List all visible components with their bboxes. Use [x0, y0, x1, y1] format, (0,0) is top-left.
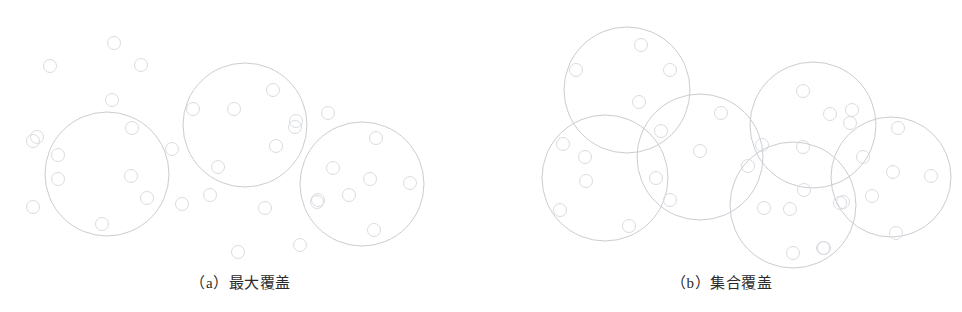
point-marker: [52, 173, 65, 186]
point-marker: [212, 161, 225, 174]
point-marker: [866, 190, 879, 203]
point-marker: [176, 198, 189, 211]
point-marker: [187, 103, 200, 116]
point-marker: [784, 203, 797, 216]
point-marker: [817, 242, 830, 255]
point-marker: [27, 201, 40, 214]
point-marker: [204, 189, 217, 202]
figure-canvas: [0, 0, 962, 312]
point-marker: [890, 227, 903, 240]
panel-a-caption: （a）最大覆盖: [0, 272, 481, 294]
point-marker: [364, 173, 377, 186]
point-marker: [846, 104, 859, 117]
point-marker: [925, 170, 938, 183]
point-marker: [404, 177, 417, 190]
point-marker: [570, 64, 583, 77]
panel-a-caption-text: 最大覆盖: [229, 275, 291, 291]
point-marker: [44, 60, 57, 73]
point-marker: [228, 103, 241, 116]
point-marker: [96, 218, 109, 231]
point-marker: [557, 138, 570, 151]
point-marker: [818, 242, 831, 255]
point-marker: [294, 239, 307, 252]
point-marker: [892, 122, 905, 135]
point-marker: [715, 107, 728, 120]
point-marker: [141, 192, 154, 205]
point-marker: [327, 162, 340, 175]
coverage-disk: [564, 27, 690, 153]
point-marker: [633, 96, 646, 109]
point-marker: [844, 117, 857, 130]
point-marker: [166, 143, 179, 156]
point-marker: [758, 202, 771, 215]
point-marker: [554, 204, 567, 217]
panel-b-points: [554, 39, 938, 260]
point-marker: [267, 84, 280, 97]
panel-a-caption-index: （a）: [190, 275, 228, 291]
point-marker: [31, 131, 44, 144]
point-marker: [232, 246, 245, 259]
point-marker: [655, 125, 668, 138]
point-marker: [126, 122, 139, 135]
point-marker: [135, 59, 148, 72]
panel-b-caption: （b）集合覆盖: [481, 272, 962, 294]
point-marker: [798, 184, 811, 197]
panel-b-diagram: [542, 27, 951, 268]
point-marker: [370, 132, 383, 145]
panel-b-caption-text: 集合覆盖: [710, 275, 772, 291]
point-marker: [635, 39, 648, 52]
point-marker: [664, 64, 677, 77]
point-marker: [125, 170, 138, 183]
point-marker: [322, 107, 335, 120]
coverage-disk: [750, 62, 876, 188]
point-marker: [106, 94, 119, 107]
coverage-disk: [300, 122, 424, 246]
point-marker: [52, 149, 65, 162]
panel-a-points: [27, 37, 417, 259]
point-marker: [797, 85, 810, 98]
point-marker: [887, 166, 900, 179]
point-marker: [368, 224, 381, 237]
point-marker: [623, 220, 636, 233]
coverage-disk: [45, 112, 169, 236]
point-marker: [787, 247, 800, 260]
point-marker: [579, 151, 592, 164]
point-marker: [694, 145, 707, 158]
point-marker: [650, 172, 663, 185]
caption-row: （a）最大覆盖 （b）集合覆盖: [0, 272, 962, 306]
panel-a-diagram: [27, 37, 425, 259]
panel-a-coverage-circles: [45, 63, 424, 246]
point-marker: [824, 108, 837, 121]
point-marker: [580, 175, 593, 188]
point-marker: [664, 194, 677, 207]
point-marker: [259, 202, 272, 215]
point-marker: [270, 140, 283, 153]
point-marker: [27, 135, 40, 148]
figure-root: （a）最大覆盖 （b）集合覆盖: [0, 0, 962, 312]
point-marker: [108, 37, 121, 50]
point-marker: [343, 189, 356, 202]
panel-b-caption-index: （b）: [671, 275, 710, 291]
